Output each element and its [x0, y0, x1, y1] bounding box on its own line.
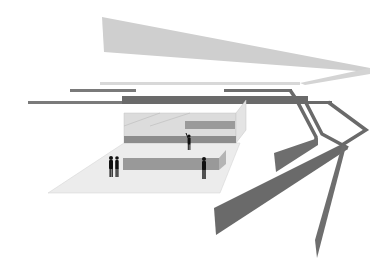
upper-beams	[70, 89, 292, 92]
roof-canopy	[102, 17, 370, 85]
diagram-svg	[0, 0, 392, 273]
upper-volume	[124, 100, 246, 143]
roof-edge-beam	[100, 82, 300, 85]
main-beam	[28, 96, 332, 104]
architectural-diagram	[0, 0, 392, 273]
